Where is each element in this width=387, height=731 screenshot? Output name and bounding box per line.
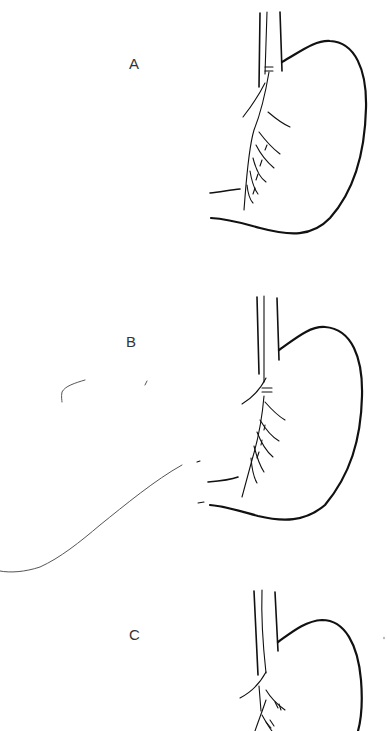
stomach-drawing-b <box>0 296 362 572</box>
stomach-drawing-a <box>210 12 366 233</box>
speck <box>383 637 385 639</box>
diagram-canvas <box>0 0 387 731</box>
stomach-drawing-c <box>240 590 362 731</box>
